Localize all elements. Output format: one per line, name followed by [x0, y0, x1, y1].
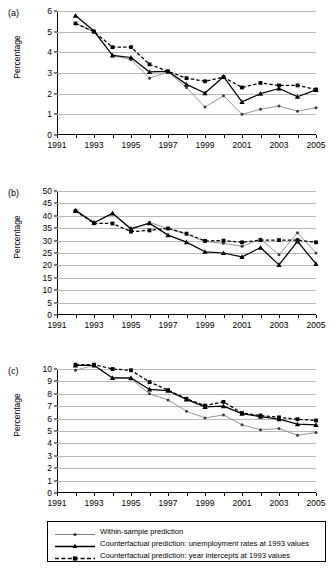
data-point-marker — [74, 363, 78, 367]
y-tick-label: 5 — [47, 298, 52, 307]
x-tick-label: 1995 — [122, 321, 141, 330]
x-tick-mark — [298, 493, 299, 496]
y-tick-label: 4 — [47, 48, 52, 57]
data-point-marker — [74, 369, 77, 372]
series-3 — [74, 22, 318, 92]
data-point-marker — [296, 417, 300, 421]
y-tick-label: 50 — [43, 187, 52, 196]
data-point-marker — [185, 397, 189, 401]
data-point-marker — [148, 62, 152, 66]
data-point-marker — [111, 367, 115, 371]
data-point-marker — [259, 108, 262, 111]
legend-label-within-sample: Within-sample prediction — [100, 527, 183, 536]
panel-a-plot-area: 012345619911993199519971999200120032005 — [57, 11, 316, 135]
series-line — [76, 365, 317, 421]
y-tick-label: 2 — [47, 89, 52, 98]
data-point-marker — [277, 84, 281, 88]
data-point-marker — [314, 240, 318, 244]
data-point-marker — [241, 113, 244, 116]
legend-key-gray-dot-line-icon — [54, 526, 96, 537]
x-tick-mark — [224, 315, 225, 318]
x-tick-mark — [261, 135, 262, 138]
legend-item-counterfactual-year-intercepts: Counterfactual prediction: year intercep… — [54, 550, 319, 561]
x-tick-label: 1999 — [196, 321, 215, 330]
x-tick-label: 1993 — [85, 499, 104, 508]
x-tick-label: 2001 — [233, 141, 252, 150]
x-tick-mark — [187, 135, 188, 138]
x-tick-mark — [279, 315, 280, 318]
data-point-marker — [129, 368, 133, 372]
series-line — [76, 365, 317, 435]
x-tick-label: 2005 — [307, 321, 326, 330]
data-point-marker — [167, 399, 170, 402]
data-point-marker — [222, 239, 226, 243]
x-tick-mark — [261, 493, 262, 496]
y-tick-label: 30 — [43, 236, 52, 245]
y-tick-label: 6 — [47, 7, 52, 16]
data-point-marker — [277, 238, 281, 242]
series-line — [76, 211, 317, 242]
x-tick-label: 2003 — [270, 499, 289, 508]
panel-b-plot-area: 0510152025303540455019911993199519971999… — [57, 191, 316, 315]
y-tick-label: 15 — [43, 274, 52, 283]
y-tick-label: 9 — [47, 377, 52, 386]
x-tick-label: 2005 — [307, 499, 326, 508]
x-tick-label: 2003 — [270, 321, 289, 330]
data-point-marker — [92, 363, 96, 367]
series-1 — [74, 364, 318, 437]
chart-panel-c: (c) Percentage 0123456789101991199319951… — [0, 358, 336, 536]
x-tick-mark — [131, 493, 132, 496]
data-point-marker — [314, 419, 318, 423]
x-tick-mark — [242, 493, 243, 496]
y-tick-label: 0 — [47, 489, 52, 498]
data-point-marker — [241, 423, 244, 426]
x-tick-mark — [57, 493, 58, 496]
x-tick-label: 1997 — [159, 321, 178, 330]
x-tick-mark — [224, 135, 225, 138]
data-point-marker — [296, 434, 299, 437]
x-tick-mark — [76, 493, 77, 496]
x-tick-mark — [57, 315, 58, 318]
x-tick-mark — [94, 315, 95, 318]
x-tick-mark — [131, 315, 132, 318]
x-tick-label: 1995 — [122, 141, 141, 150]
y-tick-label: 10 — [43, 365, 52, 374]
data-point-marker — [240, 86, 244, 90]
data-point-marker — [222, 94, 225, 97]
data-point-marker — [111, 45, 115, 49]
data-point-marker — [166, 227, 170, 231]
data-point-marker — [222, 400, 226, 404]
data-point-marker — [314, 88, 318, 92]
y-tick-label: 3 — [47, 452, 52, 461]
x-tick-label: 2005 — [307, 141, 326, 150]
y-tick-label: 8 — [47, 390, 52, 399]
x-tick-label: 2003 — [270, 141, 289, 150]
data-point-marker — [296, 238, 300, 242]
chart-legend: Within-sample prediction Counterfactual … — [47, 521, 326, 562]
y-tick-label: 20 — [43, 261, 52, 270]
data-point-marker — [92, 30, 96, 34]
x-tick-label: 1995 — [122, 499, 141, 508]
y-tick-label: 5 — [47, 427, 52, 436]
x-tick-label: 2001 — [233, 499, 252, 508]
x-tick-mark — [316, 493, 317, 496]
y-tick-label: 1 — [47, 476, 52, 485]
x-tick-mark — [224, 493, 225, 496]
x-tick-mark — [242, 135, 243, 138]
x-tick-mark — [76, 315, 77, 318]
x-tick-mark — [168, 493, 169, 496]
series-line — [76, 211, 317, 254]
data-point-marker — [240, 240, 244, 244]
data-point-marker — [185, 76, 189, 80]
y-tick-label: 40 — [43, 212, 52, 221]
data-point-marker — [296, 84, 300, 88]
series-line — [76, 23, 317, 114]
y-tick-label: 4 — [47, 439, 52, 448]
data-point-marker — [278, 253, 281, 256]
panel-c-y-axis-label: Percentage — [12, 370, 22, 460]
x-tick-label: 1993 — [85, 321, 104, 330]
data-point-marker — [166, 388, 170, 392]
y-tick-label: 25 — [43, 249, 52, 258]
legend-item-within-sample: Within-sample prediction — [54, 526, 319, 537]
x-tick-mark — [150, 493, 151, 496]
